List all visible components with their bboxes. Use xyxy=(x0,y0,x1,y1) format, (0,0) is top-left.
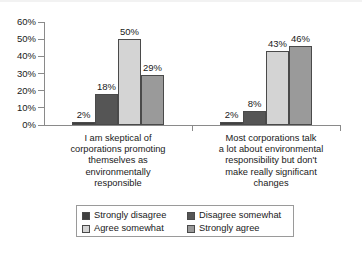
bar-value-label: 2% xyxy=(225,110,239,120)
bar-value-label: 46% xyxy=(291,34,310,44)
legend-swatch-icon xyxy=(82,212,90,220)
y-axis-tick-label: 0% xyxy=(22,120,36,129)
bar xyxy=(95,94,118,125)
bar xyxy=(289,46,312,125)
bar xyxy=(243,111,266,125)
legend-label: Strongly agree xyxy=(199,223,259,234)
legend-label: Disagree somewhat xyxy=(199,210,281,221)
bar xyxy=(141,75,164,125)
y-axis-tick-label: 20% xyxy=(17,86,36,95)
category-label-line: changes xyxy=(196,178,346,189)
clipped-title-rule xyxy=(0,0,362,2)
y-axis-tick-label: 10% xyxy=(17,103,36,112)
chart-legend: Strongly disagreeDisagree somewhatAgree … xyxy=(76,205,294,237)
category-label-line: I am skeptical of xyxy=(48,133,188,144)
category-label-line: Most corporations talk xyxy=(196,133,346,144)
y-axis-tick-label: 50% xyxy=(17,34,36,43)
legend-label: Agree somewhat xyxy=(94,223,164,234)
legend-label: Strongly disagree xyxy=(94,210,166,221)
category-label-line: responsible xyxy=(48,178,188,189)
category-label-1: Most corporations talka lot about enviro… xyxy=(196,133,346,189)
legend-item[interactable]: Agree somewhat xyxy=(82,222,183,235)
bar-value-label: 2% xyxy=(77,110,91,120)
bar-value-label: 8% xyxy=(248,99,262,109)
bar-value-label: 50% xyxy=(120,27,139,37)
bar-value-label: 18% xyxy=(97,82,116,92)
bar-chart: 0%10%20%30%40%50%60% 2%18%50%29%2%8%43%4… xyxy=(0,0,362,254)
x-axis-tick xyxy=(192,126,193,131)
bar xyxy=(266,51,289,125)
category-label-line: environmentally xyxy=(48,167,188,178)
category-label-line: corporations promoting xyxy=(48,144,188,155)
bar-value-label: 43% xyxy=(268,39,287,49)
bar xyxy=(220,122,243,125)
y-axis-tick-label: 40% xyxy=(17,51,36,60)
category-label-line: themselves as xyxy=(48,155,188,166)
legend-item[interactable]: Strongly disagree xyxy=(82,209,183,222)
y-axis-tick-label: 30% xyxy=(17,69,36,78)
category-label-0: I am skeptical ofcorporations promotingt… xyxy=(48,133,188,189)
legend-swatch-icon xyxy=(187,212,195,220)
bar xyxy=(118,39,141,125)
legend-item[interactable]: Disagree somewhat xyxy=(187,209,288,222)
legend-swatch-icon xyxy=(82,225,90,233)
bar xyxy=(72,122,95,125)
category-label-line: a lot about environmental xyxy=(196,144,346,155)
bar-value-label: 29% xyxy=(143,63,162,73)
x-axis-tick xyxy=(340,126,341,131)
category-label-line: responsibility but don't xyxy=(196,155,346,166)
legend-swatch-icon xyxy=(187,225,195,233)
y-axis-tick-label: 60% xyxy=(17,17,36,26)
legend-item[interactable]: Strongly agree xyxy=(187,222,288,235)
category-label-line: make really significant xyxy=(196,167,346,178)
